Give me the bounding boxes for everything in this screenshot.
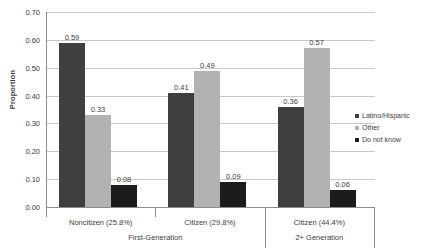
bar bbox=[168, 93, 194, 207]
y-tick-label: 0.60 bbox=[10, 35, 40, 44]
bar bbox=[111, 185, 137, 207]
y-tick-label: 0.30 bbox=[10, 119, 40, 128]
legend-label: Do not know bbox=[362, 136, 401, 143]
legend-item[interactable]: Other bbox=[355, 122, 431, 133]
legend-swatch-icon bbox=[355, 138, 359, 142]
bar-value-label: 0.36 bbox=[274, 97, 308, 106]
group-separator bbox=[265, 208, 266, 248]
bar-value-label: 0.06 bbox=[326, 180, 360, 189]
legend-item[interactable]: Latino/Hispanic bbox=[355, 110, 431, 121]
bar-value-label: 0.41 bbox=[164, 83, 198, 92]
bar bbox=[330, 190, 356, 207]
bars-layer: 0.590.330.080.410.490.090.360.570.06 bbox=[47, 12, 375, 207]
bar bbox=[220, 182, 246, 207]
group-label: 2+ Generation bbox=[265, 233, 374, 242]
y-tick-label: 0.70 bbox=[10, 8, 40, 17]
legend-item[interactable]: Do not know bbox=[355, 134, 431, 145]
bar bbox=[278, 107, 304, 207]
bar bbox=[85, 115, 111, 207]
category-tick bbox=[155, 208, 156, 217]
legend-swatch-icon bbox=[355, 114, 359, 118]
legend-label: Latino/Hispanic bbox=[362, 112, 410, 119]
y-tick-label: 0.50 bbox=[10, 63, 40, 72]
bar-value-label: 0.08 bbox=[107, 175, 141, 184]
bar-value-label: 0.49 bbox=[190, 61, 224, 70]
y-tick-label: 0.10 bbox=[10, 175, 40, 184]
bar-value-label: 0.57 bbox=[300, 38, 334, 47]
bar-value-label: 0.09 bbox=[216, 172, 250, 181]
legend: Latino/HispanicOtherDo not know bbox=[355, 110, 431, 146]
legend-swatch-icon bbox=[355, 126, 359, 130]
bar-value-label: 0.33 bbox=[81, 105, 115, 114]
legend-label: Other bbox=[362, 124, 380, 131]
y-tick-label: 0.00 bbox=[10, 203, 40, 212]
category-label: Citizen (44.4%) bbox=[265, 218, 374, 227]
group-label: First-Generation bbox=[46, 233, 265, 242]
plot-area: 0.590.330.080.410.490.090.360.570.06 bbox=[46, 12, 375, 208]
category-label: Noncitizen (25.8%) bbox=[46, 218, 155, 227]
bar bbox=[59, 43, 85, 207]
category-axis: Noncitizen (25.8%)Citizen (29.8%)Citizen… bbox=[46, 208, 375, 250]
bar bbox=[194, 71, 220, 208]
y-tick-label: 0.40 bbox=[10, 91, 40, 100]
group-separator bbox=[374, 208, 375, 248]
bar-chart: Proportion 0.000.100.200.300.400.500.600… bbox=[0, 0, 431, 250]
y-tick-label: 0.20 bbox=[10, 147, 40, 156]
y-axis-tick-labels: 0.000.100.200.300.400.500.600.70 bbox=[10, 0, 40, 250]
category-tick bbox=[46, 208, 47, 217]
bar-value-label: 0.59 bbox=[55, 33, 89, 42]
category-label: Citizen (29.8%) bbox=[155, 218, 264, 227]
